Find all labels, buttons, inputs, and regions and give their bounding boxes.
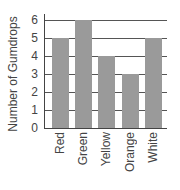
bar-white: [145, 38, 162, 128]
x-tick: White: [147, 132, 159, 163]
x-tick: Orange: [124, 132, 136, 172]
x-tick: Yellow: [100, 132, 112, 166]
x-tick: Green: [77, 132, 89, 165]
y-tick: 6: [24, 14, 38, 26]
y-tick: 5: [24, 32, 38, 44]
y-tick: 4: [24, 50, 38, 62]
y-axis: [44, 14, 45, 129]
bar-yellow: [98, 56, 115, 128]
gridline: [45, 20, 167, 21]
y-tick: 0: [24, 122, 38, 134]
y-tick: 3: [24, 68, 38, 80]
x-tick: Red: [54, 132, 66, 154]
y-axis-label: Number of Gumdrops: [6, 16, 20, 131]
y-tick: 2: [24, 86, 38, 98]
bar-chart: Number of Gumdrops 0 1 2 3 4 5 6 Red Gre…: [0, 0, 180, 190]
bar-green: [75, 20, 92, 128]
bar-orange: [122, 74, 139, 128]
bar-red: [52, 38, 69, 128]
y-tick: 1: [24, 104, 38, 116]
x-axis: [44, 128, 167, 129]
